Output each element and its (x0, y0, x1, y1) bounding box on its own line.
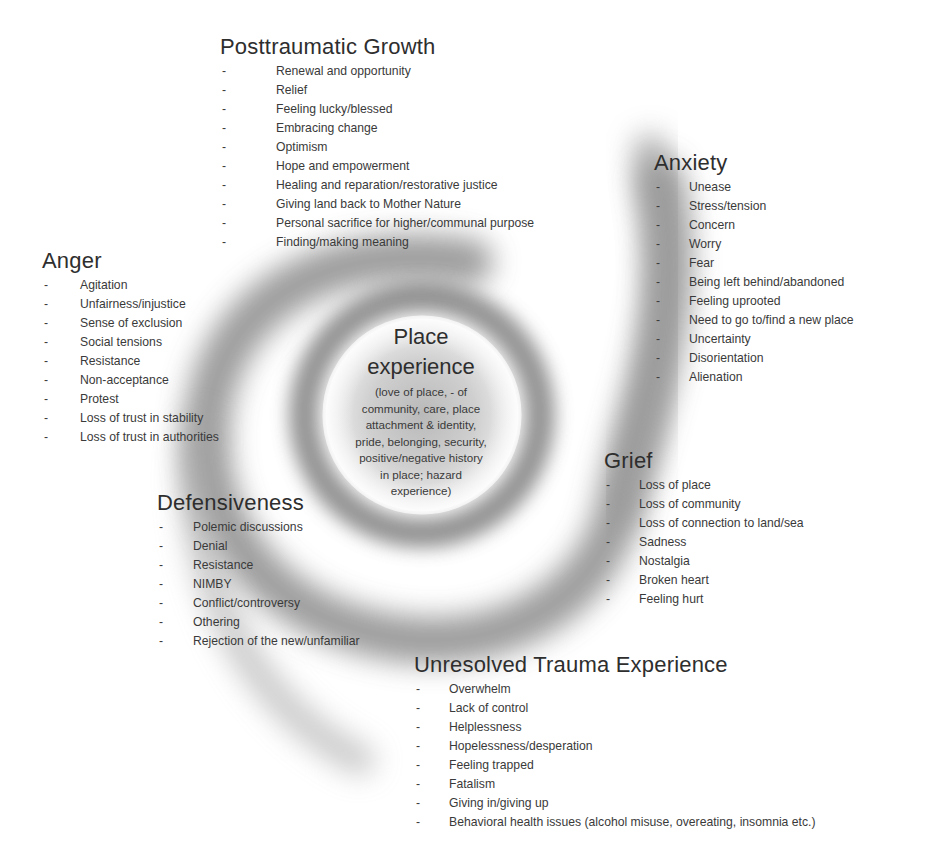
list-item: -Feeling lucky/blessed (220, 100, 534, 119)
center-description-line: pride, belonging, security, (326, 434, 516, 451)
group-anxiety: Anxiety -Unease -Stress/tension -Concern… (654, 150, 854, 387)
list-item: -Helplessness (414, 718, 816, 737)
group-title: Unresolved Trauma Experience (414, 652, 816, 678)
list-item: -Relief (220, 81, 534, 100)
group-title: Posttraumatic Growth (220, 34, 534, 60)
list-item: -Healing and reparation/restorative just… (220, 176, 534, 195)
list-item: -Denial (157, 537, 360, 556)
list-item: -Nostalgia (604, 552, 804, 571)
list-item: -NIMBY (157, 575, 360, 594)
group-item-list: -Overwhelm -Lack of control -Helplessnes… (414, 680, 816, 832)
list-item: -Hopelessness/desperation (414, 737, 816, 756)
list-item: -Renewal and opportunity (220, 62, 534, 81)
list-item: -Giving land back to Mother Nature (220, 195, 534, 214)
group-title: Defensiveness (157, 490, 360, 516)
list-item: -Disorientation (654, 349, 854, 368)
list-item: -Rejection of the new/unfamiliar (157, 632, 360, 651)
group-title: Grief (604, 448, 804, 474)
list-item: -Fatalism (414, 775, 816, 794)
list-item: -Loss of trust in authorities (42, 428, 219, 447)
center-description: (love of place, - of community, care, pl… (326, 384, 516, 500)
group-item-list: -Unease -Stress/tension -Concern -Worry … (654, 178, 854, 387)
list-item: -Social tensions (42, 333, 219, 352)
list-item: -Unfairness/injustice (42, 295, 219, 314)
list-item: -Stress/tension (654, 197, 854, 216)
list-item: -Being left behind/abandoned (654, 273, 854, 292)
list-item: -Giving in/giving up (414, 794, 816, 813)
list-item: -Feeling trapped (414, 756, 816, 775)
list-item: -Resistance (157, 556, 360, 575)
list-item: -Finding/making meaning (220, 233, 534, 252)
list-item: -Resistance (42, 352, 219, 371)
group-item-list: -Polemic discussions -Denial -Resistance… (157, 518, 360, 651)
list-item: -Lack of control (414, 699, 816, 718)
center-description-line: in place; hazard (326, 467, 516, 484)
list-item: -Unease (654, 178, 854, 197)
list-item: -Agitation (42, 276, 219, 295)
list-item: -Overwhelm (414, 680, 816, 699)
group-title: Anxiety (654, 150, 854, 176)
list-item: -Sense of exclusion (42, 314, 219, 333)
center-place-experience: Place experience (love of place, - of co… (326, 322, 516, 500)
group-item-list: -Agitation -Unfairness/injustice -Sense … (42, 276, 219, 447)
group-posttraumatic-growth: Posttraumatic Growth -Renewal and opport… (220, 34, 534, 252)
list-item: -Hope and empowerment (220, 157, 534, 176)
group-title: Anger (42, 248, 219, 274)
group-grief: Grief -Loss of place -Loss of community … (604, 448, 804, 609)
center-description-line: (love of place, - of (326, 384, 516, 401)
list-item: -Sadness (604, 533, 804, 552)
group-unresolved-trauma: Unresolved Trauma Experience -Overwhelm … (414, 652, 816, 832)
list-item: -Feeling hurt (604, 590, 804, 609)
list-item: -Broken heart (604, 571, 804, 590)
list-item: -Loss of trust in stability (42, 409, 219, 428)
list-item: -Loss of place (604, 476, 804, 495)
list-item: -Concern (654, 216, 854, 235)
list-item: -Protest (42, 390, 219, 409)
center-description-line: community, care, place (326, 401, 516, 418)
list-item: -Non-acceptance (42, 371, 219, 390)
center-description-line: attachment & identity, (326, 417, 516, 434)
group-anger: Anger -Agitation -Unfairness/injustice -… (42, 248, 219, 447)
list-item: -Need to go to/find a new place (654, 311, 854, 330)
group-item-list: -Loss of place -Loss of community -Loss … (604, 476, 804, 609)
list-item: -Uncertainty (654, 330, 854, 349)
group-item-list: -Renewal and opportunity -Relief -Feelin… (220, 62, 534, 252)
list-item: -Loss of community (604, 495, 804, 514)
center-title-line2: experience (326, 352, 516, 382)
list-item: -Othering (157, 613, 360, 632)
center-description-line: positive/negative history (326, 450, 516, 467)
list-item: -Polemic discussions (157, 518, 360, 537)
list-item: -Personal sacrifice for higher/communal … (220, 214, 534, 233)
list-item: -Loss of connection to land/sea (604, 514, 804, 533)
group-defensiveness: Defensiveness -Polemic discussions -Deni… (157, 490, 360, 651)
list-item: -Feeling uprooted (654, 292, 854, 311)
list-item: -Behavioral health issues (alcohol misus… (414, 813, 816, 832)
list-item: -Alienation (654, 368, 854, 387)
list-item: -Optimism (220, 138, 534, 157)
list-item: -Embracing change (220, 119, 534, 138)
list-item: -Fear (654, 254, 854, 273)
list-item: -Conflict/controversy (157, 594, 360, 613)
center-title-line1: Place (326, 322, 516, 352)
list-item: -Worry (654, 235, 854, 254)
